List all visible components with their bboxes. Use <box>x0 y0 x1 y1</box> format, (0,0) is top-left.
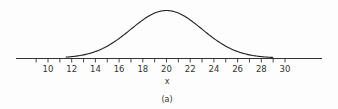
normal-curve-chart: 1012141618202224262830 x (a) <box>0 0 338 109</box>
x-tick-label: 16 <box>114 64 125 74</box>
x-tick-label: 24 <box>208 64 219 74</box>
x-tick-label: 30 <box>280 64 291 74</box>
x-tick-label: 10 <box>43 64 54 74</box>
x-tick-label: 22 <box>185 64 196 74</box>
x-axis-label: x <box>165 77 170 86</box>
x-axis-tick-labels: 1012141618202224262830 <box>43 64 291 74</box>
x-tick-label: 18 <box>137 64 148 74</box>
x-axis-ticks <box>36 59 285 63</box>
x-tick-label: 28 <box>256 64 267 74</box>
x-tick-label: 26 <box>232 64 243 74</box>
figure-caption: (a) <box>161 95 172 104</box>
x-tick-label: 14 <box>90 64 101 74</box>
density-curve <box>66 11 273 58</box>
x-tick-label: 20 <box>161 64 172 74</box>
x-tick-label: 12 <box>66 64 77 74</box>
